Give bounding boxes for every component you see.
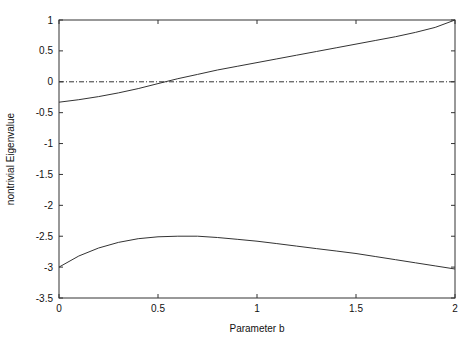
plot-frame <box>59 20 455 298</box>
x-tick-label: 1.5 <box>349 303 363 314</box>
y-tick-label: -3.5 <box>36 293 54 304</box>
y-tick-label: -2 <box>44 200 53 211</box>
y-tick-label: -1.5 <box>36 169 54 180</box>
plot-border <box>59 20 455 298</box>
x-axis-ticks: 00.511.52 <box>56 20 458 314</box>
y-tick-label: -0.5 <box>36 107 54 118</box>
x-axis-label: Parameter b <box>229 323 284 334</box>
line-chart: 10.50-0.5-1-1.5-2-2.5-3-3.5 00.511.52 Pa… <box>0 0 473 339</box>
y-axis-ticks: 10.50-0.5-1-1.5-2-2.5-3-3.5 <box>36 15 455 304</box>
series-line-upper-eigenvalue <box>59 20 455 102</box>
chart-container: 10.50-0.5-1-1.5-2-2.5-3-3.5 00.511.52 Pa… <box>0 0 473 339</box>
y-axis-label: nontrivial Eigenvalue <box>5 112 16 205</box>
y-tick-label: -2.5 <box>36 231 54 242</box>
y-tick-label: 1 <box>47 15 53 26</box>
y-tick-label: 0 <box>47 76 53 87</box>
y-tick-label: 0.5 <box>39 45 53 56</box>
x-tick-label: 1 <box>254 303 260 314</box>
data-series <box>59 20 455 269</box>
y-tick-label: -1 <box>44 138 53 149</box>
series-line-lower-eigenvalue <box>59 236 455 269</box>
x-tick-label: 2 <box>452 303 458 314</box>
y-tick-label: -3 <box>44 262 53 273</box>
x-tick-label: 0 <box>56 303 62 314</box>
x-tick-label: 0.5 <box>151 303 165 314</box>
